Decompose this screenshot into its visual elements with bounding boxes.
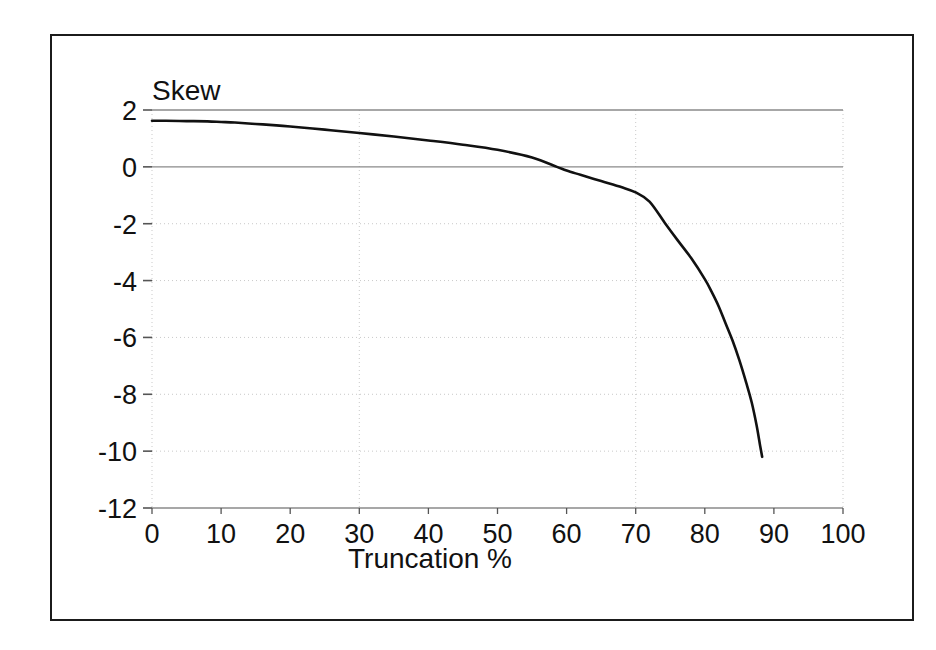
x-axis-title: Truncation % xyxy=(348,543,512,574)
vertical-gridlines xyxy=(152,110,843,508)
axis-lines xyxy=(152,110,843,508)
x-tick-label: 80 xyxy=(690,519,720,549)
y-tick-label: -10 xyxy=(98,437,137,467)
x-tick-label: 60 xyxy=(552,519,582,549)
y-tick-label: -12 xyxy=(98,494,137,524)
y-tick-label: -8 xyxy=(113,380,137,410)
y-tick-label: 2 xyxy=(122,96,137,126)
x-axis-tick-marks xyxy=(152,508,843,514)
x-tick-label: 0 xyxy=(144,519,159,549)
y-axis-tick-marks xyxy=(143,110,152,508)
x-tick-label: 20 xyxy=(275,519,305,549)
horizontal-gridlines xyxy=(152,224,843,451)
y-tick-label: 0 xyxy=(122,153,137,183)
y-tick-label: -2 xyxy=(113,210,137,240)
x-tick-label: 10 xyxy=(206,519,236,549)
y-tick-label: -4 xyxy=(113,267,137,297)
x-tick-label: 70 xyxy=(621,519,651,549)
y-axis-tick-labels: 20-2-4-6-8-10-12 xyxy=(98,96,137,524)
x-tick-label: 90 xyxy=(759,519,789,549)
skew-vs-truncation-chart: 20-2-4-6-8-10-12 0102030405060708090100 … xyxy=(0,0,936,650)
y-tick-label: -6 xyxy=(113,323,137,353)
y-axis-title: Skew xyxy=(152,75,221,106)
x-tick-label: 100 xyxy=(820,519,865,549)
skew-data-curve xyxy=(152,121,762,457)
figure-root: 20-2-4-6-8-10-12 0102030405060708090100 … xyxy=(0,0,936,650)
